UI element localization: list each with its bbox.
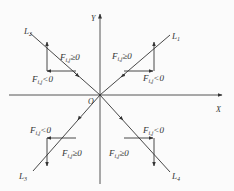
line-l1 — [100, 35, 170, 95]
origin-label: O — [88, 98, 94, 106]
line-l3-label: L3 — [19, 172, 27, 184]
circular-interpolation-quadrant-diagram: Y X O L1 L2 L3 L4 Fi,j≥0 Fi,j<0 Fi,j≥0 F… — [0, 0, 234, 191]
l1-direction-arrow — [121, 74, 125, 77]
q2-condition-lt: Fi,j<0 — [32, 75, 53, 87]
q3-condition-lt: Fi,j<0 — [30, 126, 51, 138]
q2-condition-ge: Fi,j≥0 — [60, 53, 80, 65]
line-l4-label: L4 — [172, 172, 180, 184]
l4-direction-arrow — [120, 117, 123, 120]
q3-condition-ge: Fi,j≥0 — [62, 149, 82, 161]
q1-condition-ge: Fi,j≥0 — [112, 52, 132, 64]
line-l2-label: L2 — [24, 27, 32, 39]
line-l1-label: L1 — [172, 32, 180, 44]
y-axis-label: Y — [91, 15, 95, 23]
l2-direction-arrow — [74, 72, 79, 77]
q1-condition-lt: Fi,j<0 — [143, 74, 164, 86]
diagram-canvas — [0, 0, 234, 191]
q4-condition-ge: Fi,j≥0 — [109, 149, 129, 161]
q4-condition-lt: Fi,j<0 — [143, 126, 164, 138]
x-axis-label: X — [216, 106, 221, 114]
